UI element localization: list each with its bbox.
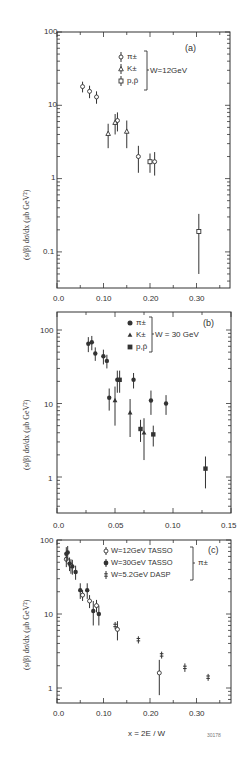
panel-c [57,540,231,703]
panel-a [57,32,230,288]
panel-b [57,312,231,513]
figure-canvas [0,0,249,766]
